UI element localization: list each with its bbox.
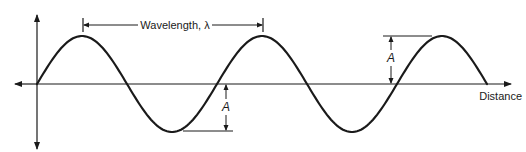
wavelength-indicator: Wavelength, λ: [83, 18, 263, 32]
x-axis-label: Distance: [479, 90, 522, 102]
amplitude-label-upper: A: [386, 51, 395, 65]
amplitude-indicator-lower: A: [183, 85, 233, 131]
amplitude-label-lower: A: [221, 100, 230, 114]
wavelength-label: Wavelength, λ: [140, 19, 210, 31]
wave-diagram: Wavelength, λ A A Distance: [0, 0, 526, 152]
